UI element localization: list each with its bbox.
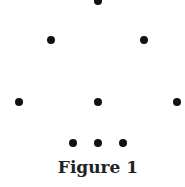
dot-5 [173,98,181,106]
dot-1 [47,36,55,44]
dot-6 [69,139,77,147]
dot-2 [140,36,148,44]
figure-caption: Figure 1 [0,157,185,177]
dot-3 [15,98,23,106]
dot-7 [94,139,102,147]
dot-0 [94,0,102,5]
dot-4 [94,98,102,106]
dot-8 [119,139,127,147]
